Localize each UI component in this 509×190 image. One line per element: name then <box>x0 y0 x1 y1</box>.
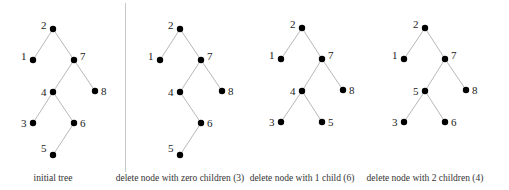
node-8 <box>92 88 98 94</box>
node-1 <box>30 57 36 63</box>
node-label: 5 <box>41 142 47 154</box>
edge-4-6 <box>53 92 74 123</box>
node-2 <box>422 25 428 31</box>
node-label: 7 <box>328 49 334 61</box>
node-2 <box>177 26 183 32</box>
tree-zero-children: 2174865delete node with zero children (3… <box>116 19 244 184</box>
node-label: 6 <box>80 117 86 129</box>
tree-caption: initial tree <box>34 173 73 183</box>
edge-2-1 <box>160 29 180 60</box>
bst-deletion-diagram: 21748365initial tree2174865delete node w… <box>0 0 509 190</box>
node-3 <box>278 119 284 125</box>
node-label: 7 <box>207 50 213 62</box>
node-label: 6 <box>451 116 457 128</box>
node-5 <box>319 119 325 125</box>
edge-6-5 <box>180 123 201 155</box>
tree-two-children: 2175836delete node with 2 children (4) <box>367 18 484 184</box>
node-label: 2 <box>413 18 419 30</box>
node-2 <box>50 26 56 32</box>
edge-7-8 <box>74 60 95 91</box>
node-label: 4 <box>168 86 174 98</box>
node-label: 2 <box>290 18 296 30</box>
node-5 <box>50 152 56 158</box>
node-8 <box>463 87 469 93</box>
node-1 <box>401 56 407 62</box>
node-5 <box>177 152 183 158</box>
node-6 <box>71 120 77 126</box>
node-5 <box>422 88 428 94</box>
node-1 <box>278 56 284 62</box>
node-label: 1 <box>21 50 27 62</box>
node-2 <box>299 25 305 31</box>
node-label: 8 <box>228 85 234 97</box>
node-label: 8 <box>349 84 355 96</box>
edge-7-8 <box>201 60 222 91</box>
node-label: 7 <box>80 50 86 62</box>
tree-initial: 21748365initial tree <box>21 19 107 183</box>
node-7 <box>442 56 448 62</box>
edge-6-5 <box>53 123 74 155</box>
node-label: 2 <box>41 19 47 31</box>
node-7 <box>71 57 77 63</box>
node-8 <box>340 87 346 93</box>
node-3 <box>30 120 36 126</box>
node-1 <box>157 57 163 63</box>
node-4 <box>177 89 183 95</box>
edge-7-4 <box>302 59 322 91</box>
node-6 <box>442 119 448 125</box>
edge-7-8 <box>445 59 466 90</box>
edge-7-4 <box>180 60 201 92</box>
node-label: 4 <box>290 85 296 97</box>
edge-4-6 <box>180 92 201 123</box>
node-label: 4 <box>41 86 47 98</box>
edge-4-5 <box>302 91 322 122</box>
node-4 <box>299 88 305 94</box>
node-label: 6 <box>207 117 213 129</box>
edge-2-7 <box>53 29 74 60</box>
node-label: 8 <box>101 85 107 97</box>
trees-group: 21748365initial tree2174865delete node w… <box>21 18 483 184</box>
node-7 <box>319 56 325 62</box>
edge-7-5 <box>425 59 445 91</box>
node-label: 3 <box>269 116 275 128</box>
node-label: 1 <box>392 49 398 61</box>
edge-2-1 <box>33 29 53 60</box>
edge-7-8 <box>322 59 343 90</box>
tree-caption: delete node with zero children (3) <box>116 173 244 184</box>
node-label: 8 <box>472 84 478 96</box>
node-label: 1 <box>148 50 154 62</box>
tree-caption: delete node with 2 children (4) <box>367 173 484 184</box>
node-label: 5 <box>168 142 174 154</box>
edge-2-7 <box>180 29 201 60</box>
node-label: 5 <box>328 116 334 128</box>
node-label: 1 <box>269 49 275 61</box>
edge-2-7 <box>302 28 322 59</box>
tree-one-child: 2174835delete node with 1 child (6) <box>250 18 355 184</box>
edge-2-7 <box>425 28 445 59</box>
node-3 <box>401 119 407 125</box>
node-label: 3 <box>21 117 27 129</box>
edge-5-6 <box>425 91 445 122</box>
node-label: 3 <box>392 116 398 128</box>
tree-caption: delete node with 1 child (6) <box>250 173 355 184</box>
edge-2-1 <box>404 28 425 59</box>
node-8 <box>219 88 225 94</box>
node-6 <box>198 120 204 126</box>
node-label: 2 <box>168 19 174 31</box>
edge-2-1 <box>281 28 302 59</box>
node-label: 5 <box>413 85 419 97</box>
node-4 <box>50 89 56 95</box>
edge-7-4 <box>53 60 74 92</box>
node-7 <box>198 57 204 63</box>
node-label: 7 <box>451 49 457 61</box>
